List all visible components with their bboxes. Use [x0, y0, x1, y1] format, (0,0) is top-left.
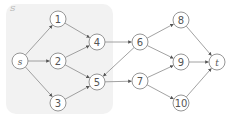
cut-set-label: S — [10, 4, 16, 13]
node-8: 8 — [173, 12, 189, 28]
edge-6-to-9 — [147, 46, 173, 59]
edge-6-to-8 — [147, 24, 173, 38]
node-label: 5 — [94, 77, 100, 88]
node-3: 3 — [50, 95, 66, 111]
edge-7-to-10 — [147, 85, 173, 99]
node-label: 6 — [137, 37, 143, 48]
node-10: 10 — [173, 95, 189, 111]
node-9: 9 — [173, 54, 189, 70]
node-5: 5 — [89, 74, 105, 90]
node-label: 1 — [55, 14, 61, 25]
node-label: s — [18, 57, 23, 67]
node-label: t — [215, 58, 219, 68]
node-6: 6 — [132, 34, 148, 50]
node-label: 10 — [175, 98, 188, 109]
node-2: 2 — [50, 53, 66, 69]
flow-network-diagram: S s12345678910t — [0, 0, 233, 123]
node-label: 7 — [137, 76, 143, 87]
edge-10-to-t — [186, 68, 211, 97]
node-7: 7 — [132, 73, 148, 89]
node-label: 2 — [55, 56, 61, 67]
edge-7-to-9 — [147, 66, 173, 78]
node-t: t — [209, 54, 225, 70]
node-4: 4 — [89, 34, 105, 50]
node-label: 3 — [55, 98, 61, 109]
node-label: 8 — [178, 15, 184, 26]
node-1: 1 — [50, 11, 66, 27]
node-s: s — [12, 53, 28, 69]
node-label: 9 — [178, 57, 184, 68]
node-label: 4 — [94, 37, 100, 48]
edge-8-to-t — [186, 26, 211, 55]
